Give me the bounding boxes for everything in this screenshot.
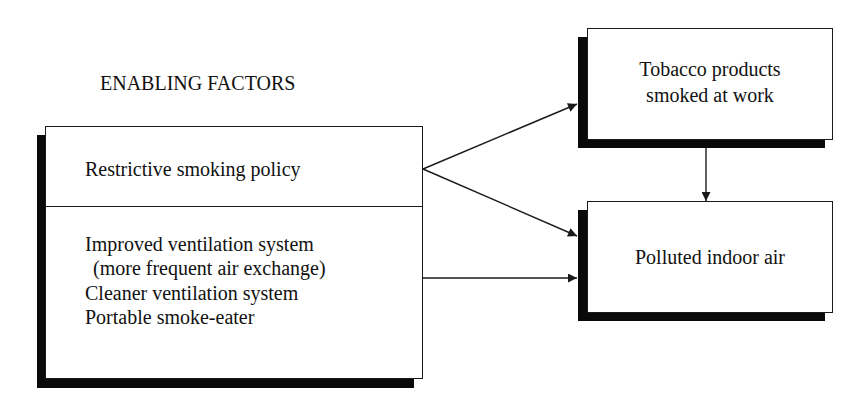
arrow-policy-to-polluted [423,169,577,236]
arrow-policy-to-tobacco [423,104,577,169]
arrows-layer [0,0,865,410]
